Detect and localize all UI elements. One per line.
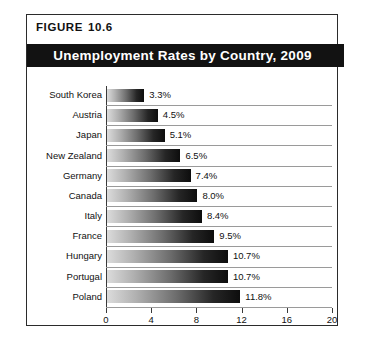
bar-row: 11.8% [106, 288, 332, 308]
x-axis-tick-mark [106, 308, 107, 313]
category-label: Germany [63, 168, 102, 184]
bar-row: 8.4% [106, 207, 332, 227]
bar-row: 10.7% [106, 268, 332, 288]
bar-row: 3.3% [106, 86, 332, 106]
plot-area: 3.3%4.5%5.1%6.5%7.4%8.0%8.4%9.5%10.7%10.… [106, 86, 332, 308]
bar-row: 4.5% [106, 106, 332, 126]
bar-row: 7.4% [106, 167, 332, 187]
category-label: Austria [72, 107, 102, 123]
x-axis-tick-label: 12 [236, 314, 247, 325]
category-label: New Zealand [46, 148, 102, 164]
bar [107, 189, 197, 202]
bar [107, 230, 214, 243]
category-label: Hungary [66, 248, 102, 264]
bar [107, 169, 191, 182]
bar-value-label: 11.8% [245, 289, 271, 305]
figure-caption-number: 10.6 [88, 21, 113, 33]
bar [107, 109, 158, 122]
bar-value-label: 4.5% [163, 107, 185, 123]
bar-value-label: 7.4% [196, 168, 218, 184]
bar [107, 89, 144, 102]
bar-row: 5.1% [106, 126, 332, 146]
bar-row: 6.5% [106, 147, 332, 167]
x-axis-tick-label: 20 [327, 314, 338, 325]
category-label: Italy [85, 208, 102, 224]
bar-value-label: 6.5% [185, 148, 207, 164]
chart-title-banner: Unemployment Rates by Country, 2009 [27, 44, 344, 67]
bar [107, 149, 180, 162]
category-label: Japan [76, 127, 102, 143]
chart-title: Unemployment Rates by Country, 2009 [27, 44, 338, 67]
category-label: South Korea [49, 87, 102, 103]
bar-value-label: 10.7% [233, 248, 260, 264]
category-label-column: South KoreaAustriaJapanNew ZealandGerman… [20, 86, 102, 308]
bar-value-label: 8.4% [207, 208, 229, 224]
bar-row: 9.5% [106, 227, 332, 247]
x-axis-tick-label: 16 [282, 314, 293, 325]
bar [107, 270, 228, 283]
bar [107, 290, 240, 303]
bar-value-label: 9.5% [219, 228, 241, 244]
x-axis: 048121620 [106, 308, 332, 330]
bar [107, 210, 202, 223]
category-label: France [72, 228, 102, 244]
bar-value-label: 3.3% [149, 87, 171, 103]
bar-row: 10.7% [106, 247, 332, 267]
x-axis-tick-mark [332, 308, 333, 313]
x-axis-tick-mark [287, 308, 288, 313]
bar-value-label: 5.1% [170, 127, 192, 143]
x-axis-tick-label: 0 [103, 314, 108, 325]
x-axis-tick-mark [242, 308, 243, 313]
figure-caption: FIGURE10.6 [36, 21, 113, 33]
bar-value-label: 8.0% [202, 188, 224, 204]
bar [107, 250, 228, 263]
figure-root: FIGURE10.6 Unemployment Rates by Country… [0, 0, 367, 342]
x-axis-tick-label: 4 [149, 314, 154, 325]
x-axis-tick-mark [151, 308, 152, 313]
bar-row: 8.0% [106, 187, 332, 207]
x-axis-tick-mark [196, 308, 197, 313]
category-label: Poland [72, 289, 102, 305]
x-axis-tick-label: 8 [194, 314, 199, 325]
category-label: Canada [69, 188, 102, 204]
category-label: Portugal [67, 269, 102, 285]
bar-value-label: 10.7% [233, 269, 260, 285]
bar [107, 129, 165, 142]
figure-caption-word: FIGURE [36, 21, 83, 33]
